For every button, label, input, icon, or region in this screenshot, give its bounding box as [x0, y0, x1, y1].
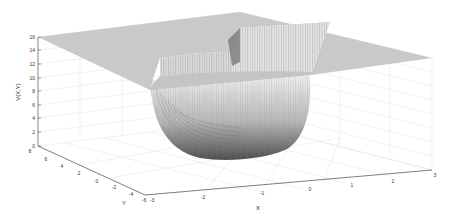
x-axis-ticks: -3 -2 -1 0 1 2 3	[150, 172, 437, 203]
svg-text:10: 10	[29, 75, 35, 81]
plateau-surface	[38, 12, 432, 90]
y-axis-line	[38, 146, 145, 195]
svg-text:2: 2	[392, 178, 395, 184]
y-axis-ticks: 8 6 4 2 0 -2 -4 -6	[29, 148, 147, 203]
z-axis-ticks: 16 14 12 10 8 6 4 2 0	[29, 34, 41, 149]
svg-text:0: 0	[32, 143, 35, 149]
bowl-well	[150, 75, 310, 160]
svg-text:-1: -1	[260, 190, 265, 196]
svg-text:6: 6	[45, 156, 48, 162]
svg-text:4: 4	[61, 163, 64, 169]
svg-text:0: 0	[96, 178, 99, 184]
svg-text:2: 2	[78, 170, 81, 176]
svg-text:-4: -4	[129, 191, 134, 197]
svg-text:0: 0	[309, 186, 312, 192]
svg-text:8: 8	[32, 88, 35, 94]
y-axis-label: Y	[122, 200, 126, 206]
svg-text:16: 16	[29, 34, 35, 40]
svg-text:1: 1	[351, 182, 354, 188]
svg-text:2: 2	[32, 129, 35, 135]
z-axis-label: V(X,Y)	[15, 83, 21, 101]
svg-text:14: 14	[29, 47, 35, 53]
svg-text:3: 3	[434, 172, 437, 178]
svg-text:8: 8	[29, 148, 32, 154]
svg-text:-3: -3	[150, 197, 155, 203]
x-axis-label: X	[256, 205, 260, 211]
svg-text:4: 4	[32, 115, 35, 121]
svg-text:12: 12	[29, 61, 35, 67]
plot-canvas: 16 14 12 10 8 6 4 2 0 V(X,Y) 8 6 4 2 0 -…	[0, 0, 450, 223]
svg-text:6: 6	[32, 102, 35, 108]
svg-text:-2: -2	[112, 184, 117, 190]
svg-text:-2: -2	[201, 194, 206, 200]
surface-plot: 16 14 12 10 8 6 4 2 0 V(X,Y) 8 6 4 2 0 -…	[0, 0, 450, 223]
svg-text:-6: -6	[142, 197, 147, 203]
